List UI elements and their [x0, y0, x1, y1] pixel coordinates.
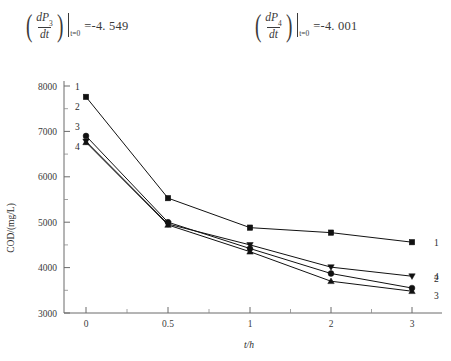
- y-tick-label: 4000: [38, 263, 57, 273]
- series-right-label-1: 1: [434, 238, 439, 248]
- series-left-label-3: 3: [75, 122, 80, 132]
- data-point-square: [83, 94, 88, 99]
- series-left-label-4: 4: [75, 142, 80, 152]
- y-tick-label: 5000: [38, 218, 57, 228]
- formula-row: ( dP3 dt ) t=0 =-4. 549 ( dP4 dt ) t=0 =…: [0, 0, 451, 60]
- y-tick-label: 7000: [38, 127, 57, 137]
- x-tick-label: 3: [410, 319, 415, 329]
- subscript: 3: [49, 19, 53, 28]
- chart-page: ( dP3 dt ) t=0 =-4. 549 ( dP4 dt ) t=0 =…: [0, 0, 451, 361]
- evaluation-point: t=0: [70, 29, 80, 38]
- x-tick-labels: 00.5123: [84, 319, 415, 329]
- y-tick-label: 8000: [38, 82, 57, 92]
- fraction-dp3-dt: dP3 dt: [34, 12, 55, 40]
- series-left-label-1: 1: [75, 82, 80, 92]
- fraction-numerator: dP4: [263, 12, 284, 27]
- evaluation-bar-icon: [68, 13, 69, 37]
- data-point-square: [328, 230, 333, 235]
- data-point-square: [165, 195, 170, 200]
- data-point-square: [409, 239, 414, 244]
- data-point-circle: [165, 219, 171, 225]
- x-tick-label: 0.5: [162, 319, 174, 329]
- fraction-denominator: dt: [38, 27, 51, 41]
- formula-value: =-4. 549: [84, 19, 128, 34]
- derivative-formula-p4: ( dP4 dt ) t=0 =-4. 001: [253, 12, 357, 40]
- y-tick-label: 6000: [38, 172, 57, 182]
- x-tick-label: 2: [329, 319, 334, 329]
- data-point-circle: [328, 271, 334, 277]
- fraction-numerator: dP3: [34, 12, 55, 27]
- axes-group: [64, 81, 442, 313]
- series-right-label-3: 3: [434, 291, 439, 301]
- data-point-square: [247, 225, 252, 230]
- data-point-circle: [83, 133, 89, 139]
- y-axis-title: COD/(mg/L): [6, 203, 17, 253]
- evaluation-bar-icon: [297, 13, 298, 37]
- data-point-circle: [409, 285, 415, 291]
- series-3: [83, 139, 415, 294]
- right-paren-icon: ): [57, 13, 63, 38]
- fraction-denominator: dt: [267, 27, 280, 41]
- series-left-label-2: 2: [75, 102, 80, 112]
- x-tick-label: 1: [248, 319, 253, 329]
- plot-svg: 300040005000600070008000 00.5123 1234123…: [0, 58, 451, 361]
- left-paren-icon: (: [26, 13, 32, 38]
- left-paren-icon: (: [255, 13, 261, 38]
- x-tick-label: 0: [84, 319, 89, 329]
- series-group: [83, 94, 415, 293]
- series-4: [83, 133, 415, 291]
- data-point-circle: [247, 246, 253, 252]
- data-point-triangle-down: [409, 274, 415, 280]
- evaluation-point: t=0: [299, 29, 309, 38]
- right-paren-icon: ): [286, 13, 292, 38]
- y-tick-label: 3000: [38, 309, 57, 319]
- fraction-dp4-dt: dP4 dt: [263, 12, 284, 40]
- y-tick-labels: 300040005000600070008000: [38, 82, 57, 319]
- series-1: [83, 94, 414, 245]
- series-line: [86, 97, 412, 242]
- series-line: [86, 141, 412, 276]
- series-2: [83, 139, 415, 279]
- series-end-labels: 12341234: [75, 82, 439, 301]
- formula-value: =-4. 001: [313, 19, 357, 34]
- cod-line-chart: 300040005000600070008000 00.5123 1234123…: [0, 58, 451, 361]
- series-right-label-4: 4: [434, 272, 439, 282]
- series-line: [86, 136, 412, 288]
- derivative-formula-p3: ( dP3 dt ) t=0 =-4. 549: [24, 12, 128, 40]
- series-line: [86, 142, 412, 291]
- x-axis-title: t/h: [244, 340, 254, 350]
- subscript: 4: [278, 19, 282, 28]
